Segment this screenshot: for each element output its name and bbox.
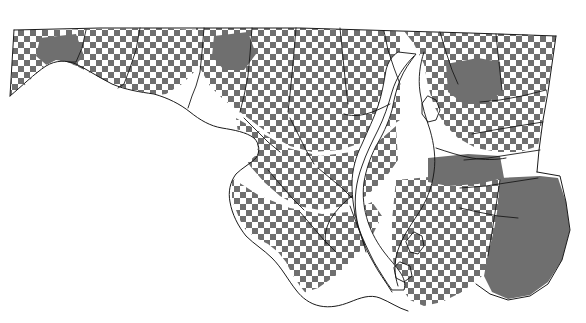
map-canvas	[0, 0, 586, 323]
maryland-map-svg	[0, 0, 586, 323]
